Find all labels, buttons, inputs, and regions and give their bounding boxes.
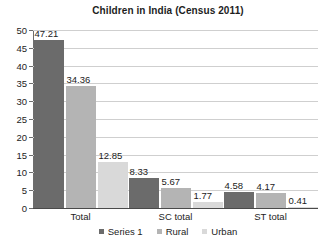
- y-axis-tick-label: 20: [1, 131, 27, 142]
- legend-item[interactable]: Series 1: [99, 226, 143, 237]
- y-axis-tick-label: 15: [1, 149, 27, 160]
- legend-item[interactable]: Rural: [157, 226, 189, 237]
- bar-value-label: 8.33: [130, 166, 149, 177]
- chart-legend: Series 1RuralUrban: [0, 226, 336, 237]
- x-axis-line: [33, 208, 318, 209]
- y-axis-tick-label: 10: [1, 167, 27, 178]
- bar: [256, 193, 286, 208]
- bar: [34, 40, 64, 208]
- bar-value-label: 0.41: [289, 195, 308, 206]
- plot-area: 47.2134.3612.858.335.671.774.584.170.41: [33, 30, 318, 208]
- x-axis-category-label: SC total: [128, 211, 223, 222]
- legend-swatch-icon: [157, 229, 162, 234]
- y-axis-tick-label: 40: [1, 60, 27, 71]
- legend-label: Rural: [166, 226, 189, 237]
- bar-value-label: 5.67: [162, 176, 181, 187]
- bar-value-label: 1.77: [194, 190, 213, 201]
- bar: [66, 86, 96, 208]
- y-axis-tick-label: 5: [1, 185, 27, 196]
- legend-label: Urban: [211, 226, 237, 237]
- x-axis-category-label: Total: [33, 211, 128, 222]
- y-axis-tick-label: 30: [1, 96, 27, 107]
- legend-swatch-icon: [202, 229, 207, 234]
- legend-item[interactable]: Urban: [202, 226, 237, 237]
- y-axis-labels: 05101520253035404550: [0, 0, 27, 241]
- legend-label: Series 1: [108, 226, 143, 237]
- bar: [224, 192, 254, 208]
- bar-value-label: 34.36: [67, 74, 91, 85]
- bar: [129, 178, 159, 208]
- bar: [161, 188, 191, 208]
- bar-chart: Children in India (Census 2011) 05101520…: [0, 0, 336, 241]
- bar-value-label: 4.58: [225, 180, 244, 191]
- x-axis-category-label: ST total: [223, 211, 318, 222]
- bar-value-label: 4.17: [257, 181, 276, 192]
- chart-title: Children in India (Census 2011): [0, 5, 336, 16]
- bar: [98, 162, 128, 208]
- bar-series-layer: 47.2134.3612.858.335.671.774.584.170.41: [33, 30, 318, 208]
- y-axis-tick-label: 25: [1, 114, 27, 125]
- legend-swatch-icon: [99, 229, 104, 234]
- y-axis-tick-label: 35: [1, 78, 27, 89]
- bar-value-label: 47.21: [35, 28, 59, 39]
- y-axis-tick-label: 0: [1, 203, 27, 214]
- y-axis-tick-label: 50: [1, 25, 27, 36]
- bar-value-label: 12.85: [99, 150, 123, 161]
- y-axis-tick-label: 45: [1, 42, 27, 53]
